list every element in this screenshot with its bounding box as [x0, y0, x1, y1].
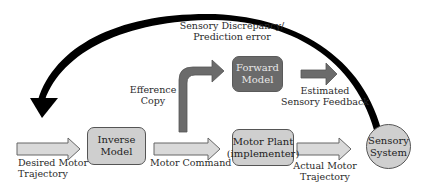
motor-command-label: Motor Command	[150, 157, 231, 168]
sensory-system-label-line1: Sensory	[368, 135, 409, 146]
feedback-label-line1: Sensory Discrepancy/	[180, 20, 285, 31]
inverse-model-node: InverseModel	[87, 127, 146, 165]
desired-trajectory-line2: Trajectory	[18, 168, 68, 179]
forward-model-label-line2: Model	[242, 74, 274, 85]
actual-trajectory-arrow	[297, 138, 351, 160]
desired-trajectory-line1: Desired Motor	[18, 157, 88, 168]
motor-plant-label-line1: Motor Plant	[233, 136, 294, 147]
feedback-label-line2: Prediction error	[193, 31, 271, 42]
efference-copy-label: Efference Copy	[128, 84, 178, 106]
estimated-feedback-line1: Estimated	[301, 85, 350, 96]
actual-trajectory-label: Actual Motor Trajectory	[290, 160, 360, 182]
motor-command-line1: Motor Command	[150, 157, 231, 168]
estimated-feedback-line2: Sensory Feedback	[281, 96, 369, 107]
feedback-arrowhead	[30, 98, 58, 118]
motor-plant-label-line2: (implementer)	[227, 148, 300, 159]
sensory-system-label-line2: System	[370, 147, 407, 158]
sensory-system-node: SensorySystem	[366, 124, 411, 169]
estimated-feedback-label: Estimated Sensory Feedback	[280, 85, 370, 107]
actual-trajectory-line2: Trajectory	[300, 171, 350, 182]
inverse-model-label-line2: Model	[101, 146, 133, 157]
actual-trajectory-line1: Actual Motor	[293, 160, 356, 171]
inverse-model-label-line1: Inverse	[98, 134, 136, 145]
efference-copy-line1: Efference	[130, 84, 177, 95]
efference-copy-line2: Copy	[141, 95, 165, 106]
motor-plant-node: Motor Plant(implementer)	[232, 129, 294, 166]
estimated-feedback-arrow	[301, 63, 337, 85]
desired-trajectory-label: Desired Motor Trajectory	[18, 157, 88, 179]
forward-model-node: ForwardModel	[232, 56, 283, 92]
feedback-label: Sensory Discrepancy/ Prediction error	[172, 20, 292, 42]
forward-model-label-line1: Forward	[236, 62, 279, 73]
efference-copy-arrow	[179, 60, 224, 132]
